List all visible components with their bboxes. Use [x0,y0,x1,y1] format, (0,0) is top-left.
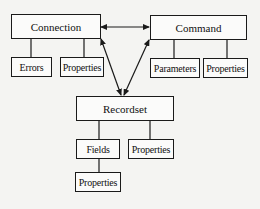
recordset-node: Recordset [76,96,174,121]
fields-properties-node: Properties [75,172,121,192]
command-label: Command [176,22,222,34]
connection-label: Connection [31,21,82,33]
connection-node: Connection [11,14,101,39]
recordset-label: Recordset [103,103,147,115]
properties-label: Properties [206,63,245,74]
command-properties-node: Properties [203,58,248,78]
properties-label: Properties [132,144,171,155]
command-recordset-arrow [124,40,149,95]
connection-properties-node: Properties [60,57,104,77]
command-parameters-node: Parameters [150,58,200,78]
connection-recordset-arrow [101,39,121,95]
connection-errors-node: Errors [11,57,52,77]
recordset-properties-node: Properties [128,139,174,159]
command-node: Command [150,15,247,40]
errors-label: Errors [20,62,44,73]
ado-object-model-diagram: Connection Errors Properties Command Par… [0,0,260,209]
recordset-fields-node: Fields [76,139,120,159]
properties-label: Properties [79,177,118,188]
properties-label: Properties [63,62,102,73]
fields-label: Fields [86,144,109,155]
parameters-label: Parameters [154,63,196,74]
